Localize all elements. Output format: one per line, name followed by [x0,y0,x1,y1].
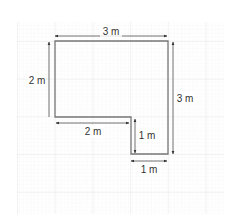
top-dimension-label: 3 m [103,26,120,37]
notch-height-dimension-label: 1 m [139,130,156,141]
graph-paper-grid [17,22,224,214]
right-dimension-label: 3 m [177,93,194,104]
bottom-left-dimension-label: 2 m [85,126,102,137]
bottom-right-dimension-label: 1 m [141,164,158,175]
left-dimension-label: 2 m [29,75,46,86]
floor-plan-diagram: 3 m 2 m 3 m 2 m 1 m 1 m [0,0,231,224]
